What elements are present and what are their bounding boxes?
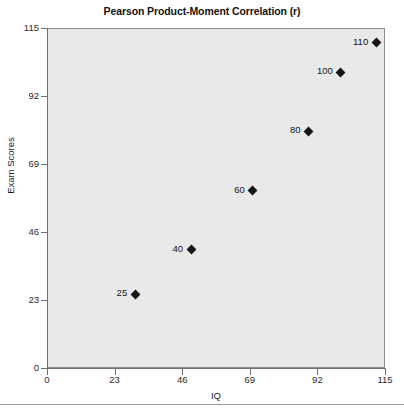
y-tick-label: 46 (0, 227, 39, 237)
data-point-label: 80 (261, 125, 301, 135)
x-axis-label: IQ (47, 390, 385, 401)
data-point-label: 40 (143, 244, 183, 254)
y-tick (41, 300, 47, 301)
footer-divider (0, 404, 404, 405)
y-tick (41, 164, 47, 165)
data-point-label: 25 (87, 288, 127, 298)
x-tick-label: 115 (365, 375, 404, 385)
y-axis-label: Exam Scores (5, 126, 16, 206)
x-tick-label: 0 (27, 375, 67, 385)
y-tick-label: 0 (0, 363, 39, 373)
y-tick (41, 28, 47, 29)
chart-title: Pearson Product-Moment Correlation (r) (0, 5, 404, 17)
x-tick-label: 23 (95, 375, 135, 385)
scatter-chart: Pearson Product-Moment Correlation (r) 0… (0, 0, 404, 415)
y-tick (41, 232, 47, 233)
plot-area (47, 28, 385, 368)
data-point-label: 60 (205, 185, 245, 195)
data-point-label: 110 (328, 37, 368, 47)
y-tick-label: 115 (0, 23, 39, 33)
y-tick-label: 92 (0, 91, 39, 101)
y-tick (41, 96, 47, 97)
x-tick-label: 46 (162, 375, 202, 385)
y-tick-label: 23 (0, 295, 39, 305)
x-tick-label: 92 (297, 375, 337, 385)
x-axis-line (47, 368, 386, 369)
x-tick-label: 69 (230, 375, 270, 385)
data-point-label: 100 (293, 66, 333, 76)
y-axis-line (47, 28, 48, 369)
